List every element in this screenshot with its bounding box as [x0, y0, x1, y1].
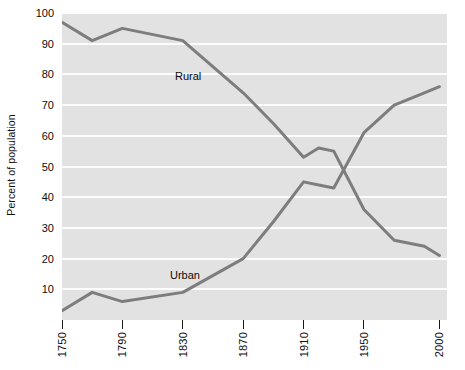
- x-tick-group: 1830: [177, 320, 189, 357]
- x-tick-mark: [303, 320, 304, 329]
- y-tick-label: 40: [42, 191, 54, 203]
- x-tick-mark: [363, 320, 364, 329]
- y-tick-label: 20: [42, 253, 54, 265]
- y-tick-label: 70: [42, 99, 54, 111]
- x-tick-group: 1790: [116, 320, 128, 357]
- y-axis-title-text: Percent of population: [5, 114, 17, 215]
- x-tick-label: 1750: [56, 332, 68, 357]
- series-label-rural: Rural: [175, 70, 201, 82]
- series-line-rural: [62, 22, 439, 255]
- y-tick-label: 80: [42, 68, 54, 80]
- y-tick-label: 100: [36, 7, 54, 19]
- series-label-urban: Urban: [170, 269, 200, 281]
- x-tick-label: 1870: [237, 332, 249, 357]
- x-tick-label: 1790: [116, 332, 128, 357]
- population-distribution-chart: Percent of population 102030405060708090…: [0, 0, 465, 370]
- y-tick-label: 10: [42, 283, 54, 295]
- x-tick-group: 2000: [433, 320, 445, 357]
- y-tick-label: 90: [42, 38, 54, 50]
- y-tick-label: 50: [42, 161, 54, 173]
- x-tick-label: 1950: [358, 332, 370, 357]
- series-line-urban: [62, 87, 439, 311]
- x-tick-group: 1950: [358, 320, 370, 357]
- y-axis-title: Percent of population: [0, 0, 22, 330]
- plot-area: Rural Urban: [62, 13, 447, 320]
- y-axis-tick-labels: 102030405060708090100: [22, 0, 58, 330]
- x-tick-mark: [182, 320, 183, 329]
- x-tick-mark: [243, 320, 244, 329]
- x-tick-group: 1870: [237, 320, 249, 357]
- x-tick-group: 1750: [56, 320, 68, 357]
- y-tick-label: 60: [42, 130, 54, 142]
- x-axis-tick-labels: 1750179018301870191019502000: [62, 320, 447, 370]
- x-tick-mark: [62, 320, 63, 329]
- y-tick-label: 30: [42, 222, 54, 234]
- x-tick-mark: [439, 320, 440, 329]
- series-lines: [62, 13, 447, 320]
- x-tick-label: 2000: [433, 332, 445, 357]
- x-tick-mark: [122, 320, 123, 329]
- x-tick-label: 1910: [298, 332, 310, 357]
- x-tick-label: 1830: [177, 332, 189, 357]
- x-tick-group: 1910: [298, 320, 310, 357]
